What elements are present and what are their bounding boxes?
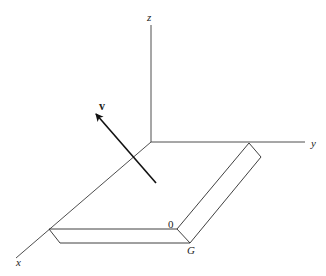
plate-top-edge-y — [177, 143, 249, 229]
plate-side-right — [249, 143, 261, 157]
plate-side-left — [49, 229, 60, 243]
x-axis — [16, 142, 151, 258]
y-axis-label: y — [310, 137, 316, 149]
plate-bottom-edge-y — [190, 157, 261, 243]
vector-v-label: v — [99, 99, 105, 113]
plate — [49, 143, 261, 243]
z-axis-label: z — [146, 11, 152, 23]
vector-v-arrow — [96, 114, 156, 183]
diagram-canvas: z y x 0 G v — [0, 0, 326, 276]
x-axis-label: x — [15, 256, 21, 268]
corner-label-g: G — [187, 244, 195, 256]
corner-label-zero: 0 — [168, 218, 174, 230]
plate-side-corner — [177, 229, 190, 243]
